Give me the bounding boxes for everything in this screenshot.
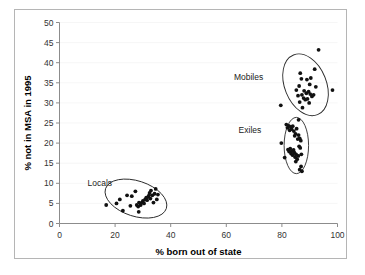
data-point <box>149 197 153 201</box>
data-point <box>298 100 302 104</box>
data-point <box>283 156 287 160</box>
y-axis-tick-label: 50 <box>44 18 54 28</box>
y-axis-tick-label: 15 <box>44 158 54 168</box>
data-point <box>152 201 156 205</box>
scatter-plot-svg: 05101520253035404550020406080100 LocalsE… <box>0 0 365 275</box>
data-point <box>294 88 298 92</box>
data-point <box>298 71 302 75</box>
data-point <box>299 77 303 81</box>
x-axis-title: % born out of state <box>155 246 241 257</box>
x-axis-tick-label: 40 <box>166 230 176 240</box>
x-axis-tick-label: 100 <box>330 230 344 240</box>
data-point <box>104 203 108 207</box>
y-axis-tick-label: 25 <box>44 118 54 128</box>
data-point <box>306 97 310 101</box>
data-point <box>118 197 122 201</box>
data-point <box>291 124 295 128</box>
y-axis-title: % not in MSA in 1995 <box>22 75 33 171</box>
axis-titles-group: % born out of state% not in MSA in 1995 <box>22 75 242 257</box>
data-point <box>295 127 299 131</box>
y-axis-tick-label: 35 <box>44 78 54 88</box>
data-point <box>308 83 312 87</box>
y-axis-tick-label: 10 <box>44 178 54 188</box>
x-axis-tick-label: 20 <box>110 230 120 240</box>
data-point <box>125 193 129 197</box>
data-point <box>313 67 317 71</box>
x-axis-tick-label: 60 <box>222 230 232 240</box>
cluster-label-mobiles: Mobiles <box>234 72 263 82</box>
y-axis-tick-label: 30 <box>44 98 54 108</box>
scatter-plot-figure: 05101520253035404550020406080100 LocalsE… <box>0 0 365 275</box>
data-point <box>297 84 301 88</box>
data-point <box>153 192 157 196</box>
cluster-label-exiles: Exiles <box>239 125 262 135</box>
data-point <box>279 141 283 145</box>
y-axis-tick-label: 0 <box>49 219 54 229</box>
data-point <box>309 76 313 80</box>
x-axis-tick-label: 0 <box>57 230 62 240</box>
data-point <box>298 146 302 150</box>
data-point <box>331 88 335 92</box>
data-point <box>149 189 153 193</box>
cluster-label-locals: Locals <box>88 178 113 188</box>
data-point <box>297 118 301 122</box>
cluster-ellipse-mobiles <box>274 47 337 122</box>
data-point <box>128 204 132 208</box>
data-point <box>121 209 125 213</box>
data-point <box>299 152 303 156</box>
y-axis-tick-label: 5 <box>49 198 54 208</box>
data-point <box>312 93 316 97</box>
y-axis-tick-label: 20 <box>44 138 54 148</box>
data-point <box>133 189 137 193</box>
data-point <box>299 139 303 143</box>
data-point <box>137 210 141 214</box>
x-axis-tick-label: 80 <box>277 230 287 240</box>
data-point <box>115 202 119 206</box>
data-point <box>300 93 304 97</box>
data-point <box>142 202 146 206</box>
data-point <box>305 78 309 82</box>
data-point <box>155 197 159 201</box>
y-axis-tick-label: 45 <box>44 38 54 48</box>
data-point <box>130 194 134 198</box>
data-point <box>301 106 305 110</box>
data-points-group <box>104 48 334 214</box>
data-point <box>294 160 298 164</box>
data-point <box>296 94 300 98</box>
data-point <box>300 169 304 173</box>
data-point <box>307 101 311 105</box>
data-point <box>156 193 160 197</box>
y-axis-tick-label: 40 <box>44 58 54 68</box>
data-point <box>154 187 158 191</box>
data-point <box>279 103 283 107</box>
cluster-labels-group: LocalsExilesMobiles <box>88 72 264 188</box>
data-point <box>317 48 321 52</box>
axes-group: 05101520253035404550020406080100 <box>44 18 345 240</box>
data-point <box>314 85 318 89</box>
